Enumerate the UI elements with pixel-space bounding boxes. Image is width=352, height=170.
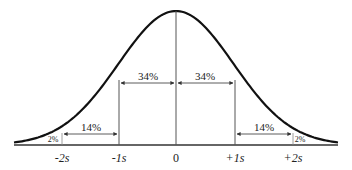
x-label-plus-2s: +2s [284,151,303,165]
x-label-minus-1s: -1s [112,151,127,165]
region-label-14-left: 14% [81,121,101,133]
region-label-2-left: 2% [48,135,59,144]
region-label-34-left: 34% [138,70,158,82]
region-label-14-right: 14% [254,121,274,133]
x-label-zero: 0 [173,151,179,165]
region-label-2-right: 2% [295,135,306,144]
x-label-minus-2s: -2s [55,151,70,165]
region-label-34-right: 34% [195,70,215,82]
normal-distribution-diagram: 34% 34% 14% 14% 2% 2% -2s -1s 0 +1s +2s [0,0,352,170]
x-label-plus-1s: +1s [226,151,245,165]
